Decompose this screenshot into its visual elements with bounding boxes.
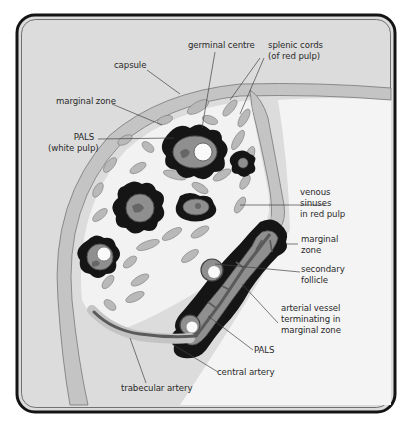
label-trabecular-artery: trabecular artery — [121, 383, 192, 394]
label-splenic-cords: splenic cords (of red pulp) — [268, 40, 323, 62]
label-capsule: capsule — [114, 60, 146, 71]
label-secondary-follicle: secondary follicle — [301, 264, 345, 286]
spleen-diagram — [0, 0, 409, 425]
label-pals-white-pulp: PALS (white pulp) — [48, 132, 94, 154]
label-arterial-vessel: arterial vessel terminating in marginal … — [281, 303, 341, 336]
label-venous-sinuses: venous sinuses in red pulp — [300, 187, 345, 220]
label-marginal-zone-right: marginal zone — [301, 234, 338, 256]
label-germinal-centre: germinal centre — [188, 40, 255, 51]
label-central-artery: central artery — [217, 367, 274, 378]
label-pals-bottom: PALS — [254, 345, 274, 356]
label-marginal-zone-top: marginal zone — [56, 96, 116, 107]
